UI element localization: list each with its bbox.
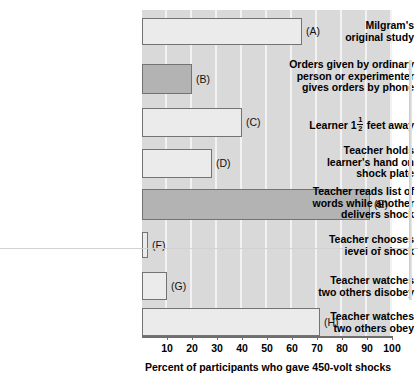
tick-mark-50 [267,336,268,340]
fraction-one-half: 12 [357,116,363,132]
page-edge-artifact [409,60,412,300]
label-line: gives orders by phone [280,82,414,94]
label-line: Milgram's [280,20,414,32]
tick-label-10: 10 [161,342,173,354]
page-scan-line-artifact [0,248,418,249]
x-axis-label: Percent of participants who gave 450-vol… [142,361,394,373]
category-label-teacher-holds-hand: Teacher holds learner's hand on shock pl… [280,145,418,180]
tick-label-90: 90 [361,342,373,354]
tick-label-50: 50 [261,342,273,354]
bar-teacher-watches-two-others-disobey[interactable] [142,272,167,300]
bar-orders-ordinary-person-or-phone[interactable] [142,64,192,94]
label-line: Teacher chooses [280,234,414,246]
label-line: delivers shock [280,209,414,221]
category-label-learner-feet-away: Learner 112 feet away [280,116,418,132]
tick-label-40: 40 [236,342,248,354]
label-line: Teacher reads list of [280,186,414,198]
bar-tag-g: (G) [171,281,186,292]
category-label-watches-others-disobey: Teacher watches two others disobey [280,275,418,298]
tick-mark-100 [392,336,393,340]
label-line: Teacher watches [280,311,414,323]
tick-label-30: 30 [211,342,223,354]
bar-tag-c: (C) [246,117,261,128]
label-line: Teacher watches [280,275,414,287]
tick-label-20: 20 [186,342,198,354]
label-line: original study [280,32,414,44]
bar-tag-b: (B) [196,74,210,85]
tick-mark-90 [367,336,368,340]
category-label-orders-ordinary-person: Orders given by ordinary person or exper… [280,59,418,94]
category-label-teacher-reads-words: Teacher reads list of words while anothe… [280,186,418,221]
bar-learner-one-and-half-feet-away[interactable] [142,108,242,137]
label-line: shock plate [280,168,414,180]
label-line: two others disobey [280,287,414,299]
tick-label-80: 80 [336,342,348,354]
bar-milgram-original-study[interactable] [142,18,302,45]
label-line: Teacher holds [280,145,414,157]
label-text: feet away [364,119,414,131]
label-line: Orders given by ordinary [280,59,414,71]
tick-label-70: 70 [311,342,323,354]
tick-mark-60 [292,336,293,340]
tick-mark-80 [342,336,343,340]
tick-mark-70 [317,336,318,340]
tick-mark-20 [192,336,193,340]
label-line: Learner 112 feet away [280,116,414,132]
category-label-watches-others-obey: Teacher watches two others obey [280,311,418,334]
tick-mark-40 [242,336,243,340]
bar-teacher-holds-learners-hand[interactable] [142,149,212,178]
category-label-milgram-original-study: Milgram's original study [280,20,418,43]
label-line: two others obey [280,323,414,335]
tick-mark-10 [167,336,168,340]
bar-tag-d: (D) [216,158,231,169]
tick-label-100: 100 [383,342,401,354]
bar-teacher-chooses-level-of-shock[interactable] [142,232,148,258]
category-label-teacher-chooses-shock: Teacher chooses level of shock [280,234,418,257]
tick-label-60: 60 [286,342,298,354]
label-text: Learner 1 [309,119,356,131]
bar-chart-figure: (A) (B) (C) (D) (E) (F) (G) (H) Milgram'… [0,0,418,387]
tick-mark-30 [217,336,218,340]
